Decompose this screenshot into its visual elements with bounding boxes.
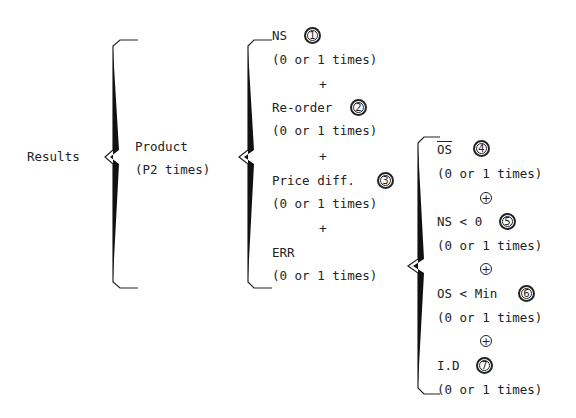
brace-results bbox=[105, 40, 138, 288]
plus-sign: + bbox=[319, 222, 327, 236]
reorder-label: Re-order bbox=[272, 101, 332, 115]
os-lt-min-repeat: (0 or 1 times) bbox=[437, 311, 542, 325]
os-repeat: (0 or 1 times) bbox=[437, 167, 542, 181]
ns-lt-zero-label: NS < 0 bbox=[437, 215, 482, 229]
root-label: Results bbox=[27, 150, 80, 164]
brace-product bbox=[239, 40, 272, 288]
oplus-icon: + bbox=[480, 335, 492, 347]
number-badge-1: 1 bbox=[304, 27, 321, 44]
number-badge-6: 6 bbox=[518, 285, 535, 302]
number-badge-7: 7 bbox=[476, 357, 493, 374]
brace-err bbox=[408, 137, 440, 394]
plus-sign: + bbox=[319, 150, 327, 164]
os-label: OS bbox=[437, 143, 452, 157]
price-diff-repeat: (0 or 1 times) bbox=[272, 197, 377, 211]
price-diff-label: Price diff. bbox=[272, 174, 355, 188]
product-repeat: (P2 times) bbox=[135, 163, 210, 177]
oplus-icon: + bbox=[480, 263, 492, 275]
number-badge-2: 2 bbox=[350, 99, 367, 116]
err-repeat: (0 or 1 times) bbox=[272, 269, 377, 283]
oplus-icon: + bbox=[480, 192, 492, 204]
ns-repeat: (0 or 1 times) bbox=[272, 53, 377, 67]
id-repeat: (0 or 1 times) bbox=[437, 383, 542, 397]
ns-lt-zero-repeat: (0 or 1 times) bbox=[437, 239, 542, 253]
product-label: Product bbox=[135, 140, 188, 154]
err-label: ERR bbox=[272, 246, 295, 260]
number-badge-3: 3 bbox=[377, 172, 394, 189]
number-badge-5: 5 bbox=[499, 213, 516, 230]
os-lt-min-label: OS < Min bbox=[437, 287, 497, 301]
number-badge-4: 4 bbox=[473, 140, 490, 157]
id-label: I.D bbox=[437, 359, 460, 373]
plus-sign: + bbox=[319, 78, 327, 92]
ns-label: NS bbox=[272, 29, 287, 43]
reorder-repeat: (0 or 1 times) bbox=[272, 124, 377, 138]
